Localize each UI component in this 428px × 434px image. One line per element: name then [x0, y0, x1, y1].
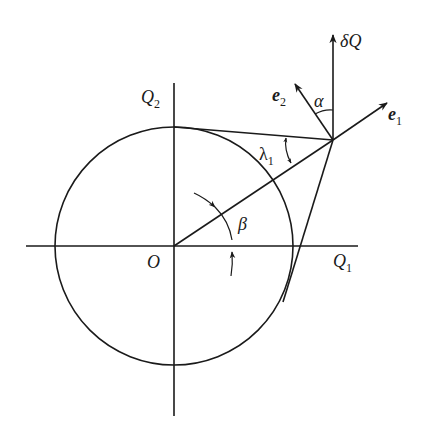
deltaQ-label: δQ	[340, 31, 361, 51]
e1-vector	[333, 103, 387, 140]
lambda1-double-arrow	[286, 138, 291, 163]
upper-tangent-line	[174, 127, 333, 140]
e2-label: e2	[272, 85, 286, 109]
beta-arc-upper	[194, 193, 215, 207]
beta-arc-middle	[215, 207, 232, 240]
origin-label: O	[147, 252, 160, 272]
q1-label: Q1	[333, 251, 352, 275]
diagram-svg: O Q1 Q2 e1 e2 δQ α β λ1	[0, 0, 428, 434]
e1-label: e1	[388, 104, 402, 128]
beta-arc-lower	[231, 252, 232, 276]
radial-line-op	[174, 140, 333, 246]
beta-label: β	[237, 214, 247, 234]
alpha-label: α	[314, 91, 324, 111]
q2-label: Q2	[141, 87, 160, 111]
diagram-canvas: O Q1 Q2 e1 e2 δQ α β λ1	[0, 0, 428, 434]
